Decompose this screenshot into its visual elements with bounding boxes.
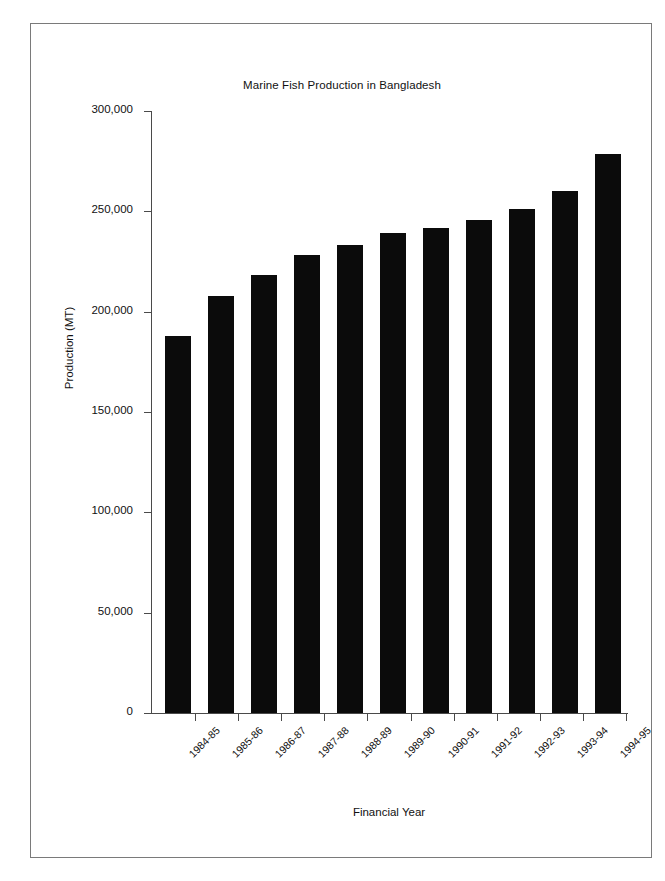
x-axis-tick (367, 714, 368, 721)
x-axis-tick (626, 714, 627, 721)
bar[interactable] (552, 191, 578, 713)
y-axis-tick (144, 211, 151, 212)
y-axis-tick (144, 512, 151, 513)
x-axis-title: Financial Year (152, 806, 626, 818)
x-axis-tick-label: 1994-95 (617, 724, 653, 760)
x-axis-tick (238, 714, 239, 721)
y-axis-tick (144, 412, 151, 413)
x-axis-tick-label: 1988-89 (359, 724, 395, 760)
y-axis-tick-label: 50,000 (28, 605, 133, 617)
y-axis-tick-label: 150,000 (28, 404, 133, 416)
bar[interactable] (294, 255, 320, 713)
x-axis-tick (540, 714, 541, 721)
bar[interactable] (165, 336, 191, 713)
x-axis-tick-label: 1984-85 (186, 724, 222, 760)
bar[interactable] (251, 275, 277, 713)
y-axis-title: Production (MT) (63, 248, 75, 448)
x-axis-tick (411, 714, 412, 721)
y-axis-tick (144, 613, 151, 614)
x-axis-tick (281, 714, 282, 721)
x-axis-tick (324, 714, 325, 721)
y-axis-tick (144, 312, 151, 313)
x-axis-tick-label: 1987-88 (316, 724, 352, 760)
y-axis-tick (144, 111, 151, 112)
bar[interactable] (595, 154, 621, 713)
y-axis-tick-label: 200,000 (28, 304, 133, 316)
x-axis-tick-label: 1986-87 (272, 724, 308, 760)
x-axis-tick (195, 714, 196, 721)
y-axis-tick-label: 100,000 (28, 504, 133, 516)
x-axis-tick (454, 714, 455, 721)
y-axis-tick (144, 713, 151, 714)
x-axis-tick-label: 1990-91 (445, 724, 481, 760)
y-axis-tick-label: 300,000 (28, 103, 133, 115)
y-axis-tick-label: 0 (28, 705, 133, 717)
bar[interactable] (380, 233, 406, 713)
bar[interactable] (466, 220, 492, 713)
bar[interactable] (509, 209, 535, 713)
bar[interactable] (208, 296, 234, 713)
x-axis-tick (583, 714, 584, 721)
bar[interactable] (423, 228, 449, 713)
chart-title: Marine Fish Production in Bangladesh (31, 79, 653, 91)
bar[interactable] (337, 245, 363, 713)
x-axis-tick-label: 1989-90 (402, 724, 438, 760)
plot-area (152, 111, 626, 713)
x-axis-tick (497, 714, 498, 721)
x-axis-line (151, 713, 628, 714)
x-axis-tick-label: 1985-86 (229, 724, 265, 760)
x-axis-tick-label: 1993-94 (574, 724, 610, 760)
x-axis-tick-label: 1992-93 (531, 724, 567, 760)
x-axis-tick-label: 1991-92 (488, 724, 524, 760)
y-axis-tick-label: 250,000 (28, 203, 133, 215)
chart-figure-frame: Marine Fish Production in Bangladesh 050… (30, 23, 652, 858)
